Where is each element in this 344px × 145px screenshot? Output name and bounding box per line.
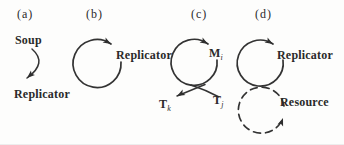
- arrowhead-icon: [200, 37, 210, 46]
- soup-to-replicator-arrow: [27, 49, 39, 78]
- figure-canvas: (a) Soup Replicator (b) Replicator (c) M…: [0, 0, 344, 145]
- resource-cycle-arrow: [238, 87, 284, 133]
- replicator-label-a: Replicator: [14, 87, 70, 101]
- panel-b-label: (b): [86, 7, 103, 21]
- bottom-rule: [0, 144, 344, 145]
- panel-c-label: (c): [191, 7, 207, 21]
- arrowhead-icon: [176, 90, 186, 99]
- soup-label: Soup: [15, 33, 42, 47]
- template-j-label: Tj: [213, 93, 224, 109]
- panel-a-label: (a): [17, 7, 33, 21]
- resource-label: Resource: [280, 95, 329, 109]
- metabolite-symbol: M: [209, 46, 221, 60]
- metabolite-label: Mi: [209, 46, 223, 62]
- replicator-label-b: Replicator: [116, 48, 172, 62]
- arrowhead-icon: [103, 37, 113, 46]
- template-k-symbol: T: [159, 97, 167, 111]
- figure-replicator-panels: (a) Soup Replicator (b) Replicator (c) M…: [0, 0, 344, 145]
- template-j-subscript: j: [220, 100, 224, 109]
- replicator-cycle-arrow-b: [73, 40, 121, 88]
- template-k-subscript: k: [167, 104, 171, 113]
- arrowhead-icon: [265, 37, 275, 46]
- panel-d-label: (d): [255, 7, 272, 21]
- template-k-label: Tk: [159, 97, 171, 113]
- metabolite-subscript: i: [221, 53, 223, 62]
- replicator-label-d: Replicator: [277, 48, 333, 62]
- template-j-symbol: T: [213, 93, 221, 107]
